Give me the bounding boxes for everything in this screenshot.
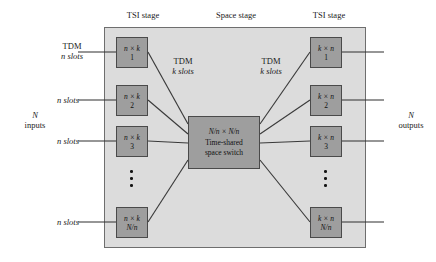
link-label-left-tdm: TDM — [158, 56, 208, 66]
input-module-1-index: 1 — [130, 53, 134, 62]
input-module-n: n × k N/n — [116, 207, 148, 238]
input-module-3-index: 3 — [130, 142, 134, 151]
input-module-1-size: n × k — [124, 44, 140, 53]
output-module-3: k × n 3 — [310, 126, 342, 157]
n-inputs-word: inputs — [8, 120, 62, 130]
input-module-n-index: N/n — [127, 223, 138, 232]
input-label-n-slots-1: n slots — [48, 51, 96, 61]
input-module-1: n × k 1 — [116, 37, 148, 68]
input-label-n-slots-4: n slots — [57, 217, 79, 227]
tst-switch-diagram: TSI stage Space stage TSI stage n × k 1 … — [0, 0, 436, 262]
output-module-1-index: 1 — [324, 53, 328, 62]
output-module-1-size: k × n — [318, 44, 334, 53]
input-label-tdm: TDM — [48, 41, 96, 51]
center-space-switch: N/n × N/n Time-shared space switch — [188, 116, 260, 169]
center-switch-line2: space switch — [205, 148, 243, 158]
output-module-3-size: k × n — [318, 133, 334, 142]
link-label-right-tdm: TDM — [246, 56, 296, 66]
n-inputs-symbol: N — [8, 110, 62, 120]
output-module-n: k × n N/n — [310, 207, 342, 238]
output-module-2-index: 2 — [324, 101, 328, 110]
center-switch-line1: Time-shared — [205, 138, 243, 148]
n-inputs-label: N inputs — [8, 110, 62, 130]
output-module-2-size: k × n — [318, 92, 334, 101]
input-modules-ellipsis — [130, 170, 133, 187]
input-module-2-size: n × k — [124, 92, 140, 101]
output-module-n-index: N/n — [321, 223, 332, 232]
center-switch-size: N/n × N/n — [209, 127, 239, 137]
output-module-n-size: k × n — [318, 214, 334, 223]
input-module-3-size: n × k — [124, 133, 140, 142]
output-module-2: k × n 2 — [310, 85, 342, 116]
output-module-1: k × n 1 — [310, 37, 342, 68]
input-module-2: n × k 2 — [116, 85, 148, 116]
input-label-n-slots-3: n slots — [57, 136, 79, 146]
link-label-left: TDM k slots — [158, 56, 208, 76]
n-outputs-label: N outputs — [386, 110, 436, 130]
input-module-n-size: n × k — [124, 214, 140, 223]
link-label-right-kslots: k slots — [246, 66, 296, 76]
input-label-n-slots-2: n slots — [57, 95, 79, 105]
n-outputs-symbol: N — [386, 110, 436, 120]
input-module-2-index: 2 — [130, 101, 134, 110]
input-label-tdm-slots: TDM n slots — [48, 41, 96, 61]
output-module-3-index: 3 — [324, 142, 328, 151]
n-outputs-word: outputs — [386, 120, 436, 130]
output-modules-ellipsis — [324, 170, 327, 187]
link-label-right: TDM k slots — [246, 56, 296, 76]
link-label-left-kslots: k slots — [158, 66, 208, 76]
input-module-3: n × k 3 — [116, 126, 148, 157]
